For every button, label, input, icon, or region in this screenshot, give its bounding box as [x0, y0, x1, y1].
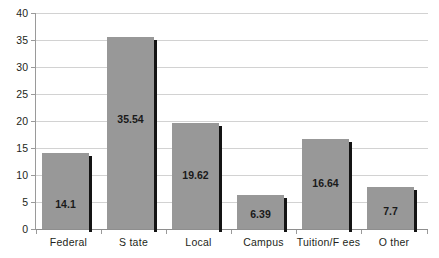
x-axis-label-campus: Campus	[231, 236, 296, 248]
bar-value-other: 7.7	[367, 206, 414, 217]
bar-group-campus: 6.39	[237, 13, 284, 229]
bar-shadow-other	[414, 190, 417, 232]
y-tick-label-20: 20	[4, 116, 28, 127]
bar-group-local: 19.62	[172, 13, 219, 229]
bar-shadow-campus	[284, 198, 287, 233]
x-axis-label-local: Local	[166, 236, 231, 248]
plot-area: 14.1 35.54 19.62 6.39 16.64	[36, 13, 428, 229]
x-axis-line	[36, 229, 428, 230]
x-tick-mark-2	[166, 230, 167, 234]
bar-value-tuition-fees: 16.64	[302, 178, 349, 189]
y-tick-label-30: 30	[4, 62, 28, 73]
bar-group-other: 7.7	[367, 13, 414, 229]
bar-chart: 40 35 30 25 20 15 10 5 0 14.1	[0, 0, 439, 258]
x-axis-label-federal: Federal	[36, 236, 101, 248]
x-tick-mark-4	[296, 230, 297, 234]
y-tick-label-40: 40	[4, 8, 28, 19]
bar-value-local: 19.62	[172, 170, 219, 181]
bar-group-tuition-fees: 16.64	[302, 13, 349, 229]
bar-value-federal: 14.1	[42, 199, 89, 210]
bar-shadow-federal	[89, 156, 92, 232]
bar-federal[interactable]	[42, 153, 89, 229]
x-tick-mark-0	[36, 230, 37, 234]
bar-state[interactable]	[107, 37, 154, 229]
x-axis-label-other: O ther	[361, 236, 427, 248]
y-axis-labels: 40 35 30 25 20 15 10 5 0	[0, 0, 28, 258]
y-tick-label-5: 5	[4, 197, 28, 208]
bar-shadow-state	[154, 40, 157, 232]
x-axis-label-tuition-fees: Tuition/F ees	[296, 236, 361, 248]
x-tick-mark-3	[231, 230, 232, 234]
bar-value-state: 35.54	[107, 114, 154, 125]
bar-value-campus: 6.39	[237, 209, 284, 220]
bar-shadow-local	[219, 126, 222, 232]
bar-group-federal: 14.1	[42, 13, 89, 229]
y-tick-label-0: 0	[4, 224, 28, 235]
y-tick-label-15: 15	[4, 143, 28, 154]
x-tick-mark-6	[427, 230, 428, 234]
y-tick-label-10: 10	[4, 170, 28, 181]
y-tick-label-35: 35	[4, 35, 28, 46]
x-tick-mark-5	[361, 230, 362, 234]
x-axis-label-state: S tate	[101, 236, 166, 248]
bar-shadow-tuition-fees	[349, 142, 352, 232]
bar-group-state: 35.54	[107, 13, 154, 229]
y-tick-label-25: 25	[4, 89, 28, 100]
x-tick-mark-1	[101, 230, 102, 234]
